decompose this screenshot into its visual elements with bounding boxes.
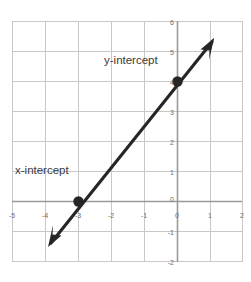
plot-area bbox=[0, 0, 251, 282]
x-tick-label-2: 2 bbox=[240, 212, 244, 219]
x-tick-label--2: -2 bbox=[108, 212, 114, 219]
coordinate-graph: -5 -4 -3 -2 -1 0 1 2 6 5 4 3 2 1 0 -1 -2… bbox=[0, 0, 251, 282]
y-tick-label--1: -1 bbox=[168, 229, 174, 236]
x-tick-label--5: -5 bbox=[9, 212, 15, 219]
x-tick-label-1: 1 bbox=[208, 212, 212, 219]
y-tick-label-1: 1 bbox=[170, 169, 174, 176]
y-tick-label-5: 5 bbox=[170, 49, 174, 56]
y-tick-label-6: 6 bbox=[170, 19, 174, 26]
arrowhead-lower-left bbox=[48, 225, 62, 247]
y-tick-label-2: 2 bbox=[170, 139, 174, 146]
x-tick-label--3: -3 bbox=[75, 212, 81, 219]
y-tick-label--2: -2 bbox=[168, 259, 174, 266]
x-tick-label-0: 0 bbox=[175, 212, 179, 219]
x-tick-label--4: -4 bbox=[42, 212, 48, 219]
y-tick-label-4: 4 bbox=[170, 79, 174, 86]
x-intercept-annotation: x-intercept bbox=[15, 165, 69, 177]
x-tick-label--1: -1 bbox=[141, 212, 147, 219]
point-x-intercept bbox=[73, 196, 83, 206]
arrowhead-upper-right-stroke bbox=[201, 38, 215, 60]
y-tick-label-0: 0 bbox=[170, 196, 174, 203]
y-intercept-annotation: y-intercept bbox=[104, 55, 158, 67]
plotted-line bbox=[48, 38, 214, 247]
y-tick-label-3: 3 bbox=[170, 109, 174, 116]
